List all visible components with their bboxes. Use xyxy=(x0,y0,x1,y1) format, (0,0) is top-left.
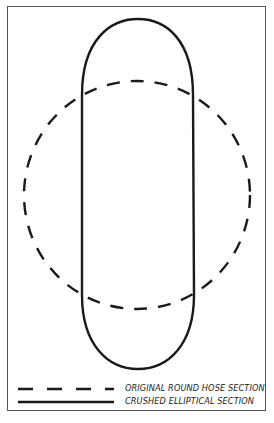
crushed-elliptical-section xyxy=(82,19,194,369)
legend-label-original: ORIGINAL ROUND HOSE SECTION xyxy=(125,383,265,393)
original-round-section xyxy=(24,81,250,309)
hose-section-diagram xyxy=(0,0,274,423)
legend-label-crushed: CRUSHED ELLIPTICAL SECTION xyxy=(125,396,254,406)
